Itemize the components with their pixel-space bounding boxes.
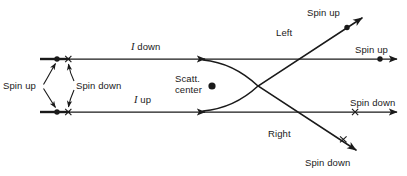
label-right: Right: [268, 128, 291, 139]
spin-up-callout-arrows: [44, 64, 56, 108]
label-spin-up-diagonal: Spin up: [307, 7, 340, 18]
label-left: Left: [276, 27, 292, 38]
dot-marker-bottom-incoming: [54, 109, 59, 114]
spin-up-arrow-to-bottom-dot: [44, 89, 56, 108]
spin-down-arrow-to-bottom-cross: [69, 90, 75, 107]
label-spin-down-diagonal: Spin down: [305, 157, 350, 168]
dot-marker-scattered-up: [344, 25, 349, 30]
top-beam-group: [40, 56, 397, 62]
label-beam-top: I down: [131, 41, 160, 52]
diagram-vector-graphics: [0, 0, 407, 176]
spin-down-callout-arrows: [69, 64, 75, 107]
dot-marker-top-outgoing: [377, 56, 382, 61]
label-spin-down-left: Spin down: [76, 80, 121, 91]
spin-down-arrow-to-top-cross: [69, 64, 75, 81]
dot-marker-top-incoming: [54, 56, 59, 61]
label-scatt-center-line1: Scatt.: [175, 74, 200, 85]
label-spin-up-left: Spin up: [3, 80, 36, 91]
label-beam-bottom: I up: [134, 94, 151, 105]
scattering-center-dot: [208, 82, 215, 89]
spin-up-arrow-to-top-dot: [44, 64, 56, 85]
label-spin-down-horizontal: Spin down: [350, 97, 395, 108]
label-spin-up-horizontal: Spin up: [355, 44, 388, 55]
label-scatt-center-line2: center: [175, 85, 202, 96]
scattering-diagram: Spin up Spin down I down I up Scatt. cen…: [0, 0, 407, 176]
bottom-beam-group: [40, 109, 397, 115]
